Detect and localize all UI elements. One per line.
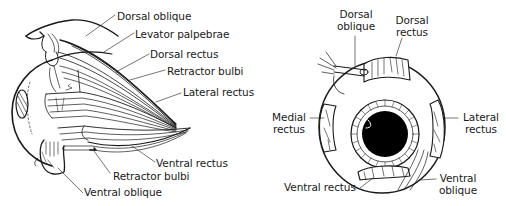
label-line2: rectus [268,123,310,135]
label-lateral-rectus: Lateral rectus [183,86,254,98]
label-line1: Lateral [458,111,504,123]
label-line2: oblique [333,20,379,32]
label-dorsal-rectus-anterior: Dorsal rectus [391,14,433,38]
label-ventral-rectus-anterior: Ventral rectus [284,181,356,193]
label-line1: Ventral [436,172,480,184]
label-line1: Medial [268,111,310,123]
label-line1: Dorsal [391,14,433,26]
anterior-view-eye-drawing [310,36,458,193]
label-line2: rectus [458,123,504,135]
label-retractor-bulbi-lower: Retractor bulbi [113,170,189,182]
pupil [362,111,408,157]
label-line2: oblique [436,184,480,196]
label-dorsal-rectus: Dorsal rectus [150,48,218,60]
extraocular-muscles-diagram: Dorsal oblique Levator palpebrae Dorsal … [0,0,506,206]
label-ventral-rectus: Ventral rectus [156,157,228,169]
label-ventral-oblique-anterior: Ventral oblique [436,172,480,196]
label-lateral-rectus-anterior: Lateral rectus [458,111,504,135]
label-levator-palpebrae: Levator palpebrae [135,28,229,40]
label-ventral-oblique: Ventral oblique [84,186,162,198]
label-line2: rectus [391,26,433,38]
label-medial-rectus: Medial rectus [268,111,310,135]
label-dorsal-oblique-anterior: Dorsal oblique [333,8,379,32]
label-dorsal-oblique: Dorsal oblique [117,10,191,22]
label-line1: Dorsal [333,8,379,20]
label-retractor-bulbi-upper: Retractor bulbi [167,65,243,77]
